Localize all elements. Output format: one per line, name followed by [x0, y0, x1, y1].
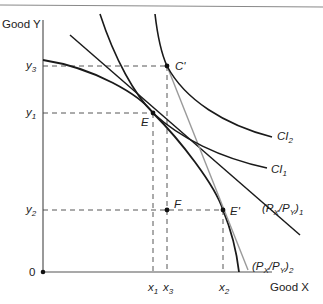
- price-line-1-label: (PX/PY)1: [262, 203, 303, 217]
- point-c-prime: [165, 64, 170, 69]
- origin-point: [41, 270, 46, 275]
- x1-label: x1: [148, 282, 158, 296]
- point-e-label: E: [141, 117, 149, 129]
- point-f-label: F: [174, 199, 181, 211]
- origin-label: 0: [29, 267, 35, 279]
- y-axis-label: Good Y: [2, 19, 41, 31]
- y3-label: y3: [26, 60, 36, 74]
- point-e-prime-label: E': [230, 206, 240, 218]
- diagram-canvas: Good Y Good X 0 y3 y1 y2 x1 x3 x2 E C' F…: [0, 0, 323, 304]
- x2-label: x2: [219, 282, 229, 296]
- price-line-2-label: (PX/PY)2: [252, 261, 293, 275]
- point-e-prime: [221, 208, 226, 213]
- dashed-guides: [43, 66, 223, 272]
- ci1-label: CI1: [271, 164, 287, 178]
- point-f: [165, 208, 170, 213]
- price-line-2: [167, 66, 248, 270]
- point-e: [151, 111, 156, 116]
- diagram-svg: [0, 0, 323, 304]
- point-c-prime-label: C': [175, 61, 186, 73]
- top-rule: [0, 5, 323, 7]
- x-axis-label: Good X: [270, 282, 309, 294]
- y1-label: y1: [26, 107, 36, 121]
- x3-label: x3: [163, 282, 173, 296]
- indifference-curve-1: [100, 14, 267, 168]
- ci2-label: CI2: [277, 131, 293, 145]
- production-possibility-curve: [43, 60, 239, 272]
- y2-label: y2: [26, 204, 36, 218]
- indifference-curve-2: [155, 14, 272, 137]
